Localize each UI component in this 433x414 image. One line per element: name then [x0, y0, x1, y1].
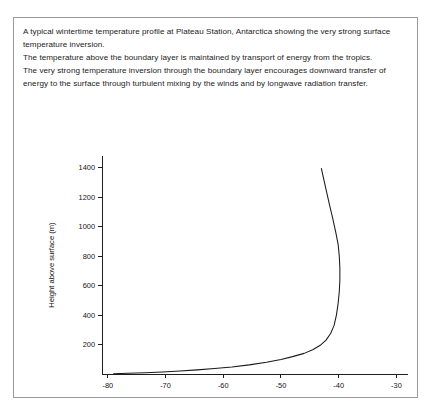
x-tick-label: -30 — [391, 381, 402, 390]
screenshot-root: A typical wintertime temperature profile… — [0, 0, 433, 414]
y-tick-label: 1200 — [79, 193, 95, 202]
y-tick-label: 200 — [83, 340, 95, 349]
temperature-profile-chart: 200400600800100012001400 -80-70-60-50-40… — [41, 128, 411, 390]
y-axis-title: Height above surface (m) — [47, 222, 56, 308]
caption-line-1: A typical wintertime temperature profile… — [23, 25, 411, 51]
y-tick-label: 1000 — [79, 222, 95, 231]
x-tick-label: -50 — [276, 381, 287, 390]
y-tick-label: 1400 — [79, 163, 95, 172]
caption-line-3: The very strong temperature inversion th… — [23, 64, 411, 90]
x-tick-label: -60 — [218, 381, 229, 390]
temperature-profile-line — [114, 169, 340, 374]
x-tick-label: -80 — [102, 381, 113, 390]
x-tick-label: -40 — [333, 381, 344, 390]
caption-line-2: The temperature above the boundary layer… — [23, 51, 411, 64]
figure-panel: A typical wintertime temperature profile… — [13, 17, 418, 398]
figure-caption: A typical wintertime temperature profile… — [23, 25, 411, 90]
y-tick-group: 200400600800100012001400 — [79, 163, 102, 349]
y-tick-label: 600 — [83, 281, 95, 290]
x-tick-label: -70 — [160, 381, 171, 390]
y-tick-label: 400 — [83, 311, 95, 320]
x-tick-group: -80-70-60-50-40-30 — [102, 374, 401, 390]
chart-canvas: 200400600800100012001400 -80-70-60-50-40… — [41, 128, 411, 390]
y-tick-label: 800 — [83, 252, 95, 261]
